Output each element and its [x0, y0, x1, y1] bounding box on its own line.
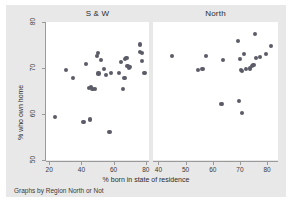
scatter-point — [242, 52, 246, 56]
scatter-point — [240, 111, 244, 115]
x-axis-tick — [81, 162, 82, 165]
scatter-panel-north — [153, 22, 278, 160]
y-axis-tick — [42, 68, 45, 69]
x-axis-line — [153, 161, 278, 162]
figure-canvas: S & W North 50607080204060804050607080 %… — [6, 5, 286, 197]
x-axis-tick — [114, 162, 115, 165]
scatter-point — [96, 71, 100, 75]
y-axis-tick — [42, 114, 45, 115]
scatter-point — [204, 54, 208, 58]
scatter-point — [93, 87, 97, 91]
y-axis-tick — [42, 22, 45, 23]
figure-caption: Graphs by Region North or Not — [14, 187, 104, 194]
scatter-point — [264, 52, 268, 56]
scatter-point — [238, 57, 242, 61]
x-axis-line — [46, 161, 149, 162]
x-axis-label: % born in state of residence — [6, 176, 286, 183]
x-axis-tick — [49, 162, 50, 165]
y-axis-tick-label: 80 — [29, 14, 36, 30]
x-axis-tick-label: 70 — [230, 166, 250, 173]
panel-title-left: S & W — [46, 9, 149, 18]
scatter-point — [53, 115, 57, 119]
scatter-point — [142, 71, 146, 75]
scatter-point — [117, 71, 121, 75]
panel-title-right: North — [153, 9, 278, 18]
scatter-point — [170, 54, 174, 58]
scatter-point — [140, 59, 144, 63]
scatter-point — [253, 32, 257, 36]
x-axis-tick — [158, 162, 159, 165]
scatter-panel-s-and-w — [46, 22, 149, 160]
scatter-point — [236, 39, 240, 43]
scatter-point — [64, 68, 68, 72]
scatter-point — [107, 130, 111, 134]
scatter-point — [124, 56, 128, 60]
x-axis-tick — [267, 162, 268, 165]
x-axis-tick — [240, 162, 241, 165]
scatter-point — [109, 71, 113, 75]
x-axis-tick — [213, 162, 214, 165]
scatter-point — [258, 55, 262, 59]
scatter-point — [221, 58, 225, 62]
scatter-point — [140, 51, 144, 55]
scatter-point — [71, 76, 75, 80]
x-axis-tick-label: 20 — [39, 166, 59, 173]
x-axis-tick — [146, 162, 147, 165]
scatter-point — [251, 63, 255, 67]
scatter-point — [138, 42, 142, 46]
scatter-point — [102, 67, 106, 71]
scatter-point — [81, 120, 85, 124]
x-axis-tick-label: 50 — [176, 166, 196, 173]
scatter-point — [237, 99, 241, 103]
scatter-point — [128, 65, 132, 69]
x-axis-tick — [186, 162, 187, 165]
y-axis-tick-label: 70 — [29, 60, 36, 76]
scatter-point — [122, 76, 126, 80]
x-axis-tick-label: 40 — [71, 166, 91, 173]
y-axis-tick — [42, 160, 45, 161]
y-axis-tick-label: 50 — [29, 152, 36, 168]
x-axis-tick-label: 60 — [203, 166, 223, 173]
scatter-point — [104, 73, 108, 77]
scatter-point — [99, 58, 103, 62]
y-axis-tick-label: 60 — [29, 106, 36, 122]
scatter-point — [219, 102, 223, 106]
scatter-point — [121, 87, 125, 91]
y-axis-line — [45, 22, 46, 161]
scatter-point — [200, 67, 204, 71]
x-axis-tick-label: 60 — [104, 166, 124, 173]
scatter-point — [96, 51, 100, 55]
scatter-point — [88, 117, 92, 121]
y-axis-label: % who own home — [17, 85, 24, 140]
scatter-point — [269, 44, 273, 48]
scatter-point — [119, 60, 123, 64]
x-axis-tick-label: 40 — [148, 166, 168, 173]
scatter-point — [84, 62, 88, 66]
x-axis-tick-label: 80 — [257, 166, 277, 173]
